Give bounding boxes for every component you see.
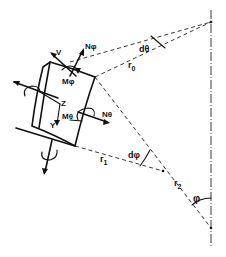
d-phi-arc — [140, 150, 150, 166]
label-r2: r2 — [174, 178, 182, 190]
axis-point-bottom — [210, 227, 213, 230]
label-r0: r0 — [128, 60, 136, 72]
label-n-phi: Nφ — [85, 42, 97, 51]
bottom-force-arrow — [45, 140, 52, 172]
d-theta-tick — [151, 36, 165, 48]
n-phi-arrow — [70, 52, 82, 76]
label-z: Z — [61, 99, 66, 108]
axis-point-top — [210, 21, 213, 24]
shell-element-diagram: V Nφ Mφ Z Y Mθ Nθ dθ r0 r1 dφ r2 φ — [0, 0, 226, 257]
curvature-center — [162, 170, 165, 173]
label-d-theta: dθ — [139, 44, 149, 54]
label-n-theta: Nθ — [102, 110, 112, 119]
bottom-arrowhead — [42, 168, 48, 175]
n-theta-arrowhead — [103, 119, 110, 125]
label-r1: r1 — [100, 154, 108, 166]
r2-line — [95, 77, 211, 228]
label-phi: φ — [193, 193, 200, 204]
label-v: V — [56, 48, 62, 57]
label-y: Y — [50, 121, 56, 130]
label-m-theta: Mθ — [62, 112, 73, 121]
label-d-phi: dφ — [128, 150, 140, 160]
r0-lower-line — [95, 22, 211, 77]
label-m-phi: Mφ — [62, 77, 75, 86]
left-axial-arrowhead — [13, 81, 20, 86]
